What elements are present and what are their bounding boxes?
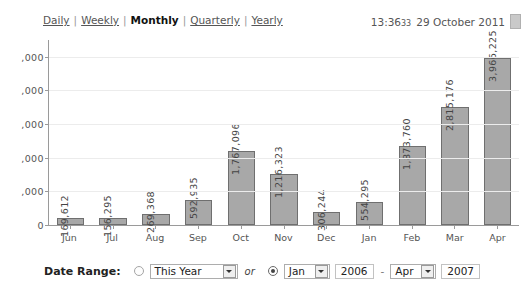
x-axis-labels: JunJulAugSepOctNovDecJanFebMarApr (48, 232, 519, 243)
bar[interactable]: 592,935 (185, 200, 212, 225)
report-header: Daily|Weekly|Monthly|Quarterly|Yearly 13… (0, 14, 529, 32)
preset-range-value: This Year (155, 265, 202, 277)
nav-item-weekly[interactable]: Weekly (80, 14, 120, 26)
y-axis-tick-label: ,000 (21, 119, 44, 130)
gridline (49, 158, 519, 159)
gridline (49, 57, 519, 58)
gridline (49, 124, 519, 125)
y-axis-tick (45, 90, 49, 91)
bar-value-label: 2,815,176 (444, 79, 455, 131)
y-axis-tick (45, 124, 49, 125)
current-date: 29 October 2011 (416, 16, 505, 28)
clock-time: 13:36 (371, 16, 401, 28)
date-range-controls: Date Range: This Year or Jan 2006 - Apr … (0, 256, 529, 286)
nav-item-daily[interactable]: Daily (42, 14, 71, 26)
bar-value-label: 269,368 (145, 191, 156, 233)
plot-area: 169,612156,295269,368592,9351,767,0961,2… (48, 40, 519, 226)
clock-seconds: 33 (401, 19, 411, 28)
x-axis-tick-label: Oct (219, 232, 262, 243)
gridline (49, 90, 519, 91)
x-axis-tick-label: Nov (262, 232, 305, 243)
y-axis-tick (45, 158, 49, 159)
y-axis-tick (45, 57, 49, 58)
x-axis-tick-label: Sep (176, 232, 219, 243)
bar[interactable]: 1,767,096 (228, 151, 255, 225)
y-axis-tick-label: ,000 (21, 51, 44, 62)
to-month-select[interactable]: Apr (390, 264, 436, 279)
bar-series: 169,612156,295269,368592,9351,767,0961,2… (49, 40, 519, 225)
x-axis-tick-label: Mar (433, 232, 476, 243)
bar-value-label: 1,767,096 (230, 123, 241, 175)
to-year-input[interactable]: 2007 (441, 264, 480, 279)
nav-separator: | (71, 14, 81, 26)
preset-range-radio[interactable] (134, 266, 144, 276)
y-axis-tick-label: ,000 (21, 152, 44, 163)
to-month-value: Apr (395, 265, 413, 277)
bar-slot: 554,295 (348, 40, 391, 225)
from-month-value: Jan (289, 265, 305, 277)
y-axis-labels: 0,000,000,000,000,000 (0, 36, 48, 225)
nav-separator: | (180, 14, 190, 26)
x-axis-tick-label: Jul (91, 232, 134, 243)
bar[interactable]: 156,295 (99, 218, 126, 225)
bar-slot: 306,244 (305, 40, 348, 225)
bar[interactable]: 169,612 (57, 218, 84, 225)
y-axis-tick-label: ,000 (21, 85, 44, 96)
bar-value-label: 169,612 (59, 195, 70, 237)
bar-value-label: 554,295 (359, 179, 370, 221)
x-axis-tick (412, 225, 413, 229)
timestamp: 13:363329 October 2011 (371, 14, 521, 29)
range-dash: - (381, 265, 385, 277)
preset-range-select[interactable]: This Year (150, 264, 238, 279)
bar-value-label: 306,244 (316, 189, 327, 231)
x-axis-tick-label: Jan (348, 232, 391, 243)
nav-separator: | (120, 14, 130, 26)
bar-slot: 1,767,096 (220, 40, 263, 225)
x-axis-tick (70, 225, 71, 229)
y-axis-tick-label: 0 (38, 220, 44, 231)
from-month-select[interactable]: Jan (284, 264, 330, 279)
bar-chart: 0,000,000,000,000,000 169,612156,295269,… (0, 36, 529, 241)
bar[interactable]: 1,216,323 (270, 174, 297, 225)
bar-slot: 592,935 (177, 40, 220, 225)
x-axis-tick-label: Apr (476, 232, 519, 243)
x-axis-tick (369, 225, 370, 229)
chevron-down-icon (315, 265, 328, 278)
bar-slot: 1,216,323 (263, 40, 306, 225)
x-axis-tick-label: Dec (305, 232, 348, 243)
bar[interactable]: 554,295 (356, 202, 383, 225)
from-year-input[interactable]: 2006 (335, 264, 374, 279)
bar-slot: 156,295 (92, 40, 135, 225)
x-axis-tick (198, 225, 199, 229)
bar-slot: 1,873,760 (391, 40, 434, 225)
bar[interactable]: 306,244 (313, 212, 340, 225)
nav-item-yearly[interactable]: Yearly (250, 14, 283, 26)
y-axis-tick (45, 225, 49, 226)
bar[interactable]: 3,966,225 (484, 58, 511, 225)
x-axis-tick-label: Jun (48, 232, 91, 243)
gridline (49, 191, 519, 192)
chevron-down-icon (223, 265, 236, 278)
y-axis-tick-label: ,000 (21, 186, 44, 197)
report-panel: Daily|Weekly|Monthly|Quarterly|Yearly 13… (0, 0, 529, 293)
bar-value-label: 1,873,760 (401, 118, 412, 170)
bar-slot: 169,612 (49, 40, 92, 225)
nav-item-monthly[interactable]: Monthly (130, 14, 180, 26)
x-axis-tick (497, 225, 498, 229)
x-axis-tick-label: Feb (391, 232, 434, 243)
bar-value-label: 1,216,323 (273, 146, 284, 198)
period-nav: Daily|Weekly|Monthly|Quarterly|Yearly (42, 14, 284, 26)
x-axis-tick (454, 225, 455, 229)
bar-slot: 2,815,176 (434, 40, 477, 225)
bar-slot: 3,966,225 (476, 40, 519, 225)
custom-range-radio[interactable] (268, 266, 278, 276)
calendar-icon[interactable] (510, 14, 521, 29)
date-range-label: Date Range: (44, 265, 121, 278)
nav-item-quarterly[interactable]: Quarterly (189, 14, 241, 26)
chevron-down-icon (421, 265, 434, 278)
x-axis-tick (241, 225, 242, 229)
x-axis-tick-label: Aug (134, 232, 177, 243)
bar-slot: 269,368 (134, 40, 177, 225)
bar[interactable]: 269,368 (142, 214, 169, 225)
or-label: or (245, 266, 255, 277)
